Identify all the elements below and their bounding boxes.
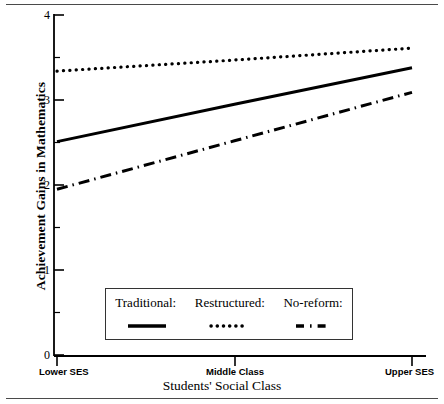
figure-container: 4 3 2 1 0 Lower SES Middle Class Upper S…: [0, 0, 444, 404]
legend-label-no-reform: No-reform:: [283, 295, 342, 311]
y-tick-label-4: 4: [28, 9, 50, 21]
y-axis-title: Achievement Gains in Mathematics: [33, 41, 49, 331]
solid-line-icon: [126, 321, 168, 331]
legend-swatches-row: [106, 319, 352, 333]
y-tick-label-0: 0: [28, 349, 50, 361]
x-tick-label-lower-ses: Lower SES: [39, 366, 89, 377]
dash-dot-line-icon: [290, 321, 332, 331]
chart-legend: Traditional: Restructured: No-reform:: [105, 288, 353, 340]
legend-swatch-dotted: [193, 319, 265, 333]
dotted-line-icon: [208, 321, 250, 331]
legend-labels-row: Traditional: Restructured: No-reform:: [106, 295, 352, 311]
series-traditional: [57, 68, 412, 142]
series-no-reform: [57, 92, 412, 189]
series-restructured: [57, 48, 412, 71]
y-axis-major-ticks: [54, 15, 64, 355]
legend-label-restructured: Restructured:: [195, 295, 265, 311]
x-axis-ticks: [57, 356, 412, 366]
legend-swatch-dash-dot: [275, 319, 347, 333]
x-tick-label-upper-ses: Upper SES: [385, 366, 434, 377]
chart-plot-area: [0, 0, 444, 404]
legend-label-traditional: Traditional:: [115, 295, 176, 311]
legend-swatch-solid: [111, 319, 183, 333]
x-tick-label-middle-class: Middle Class: [206, 366, 264, 377]
x-axis-title: Students' Social Class: [0, 378, 444, 394]
